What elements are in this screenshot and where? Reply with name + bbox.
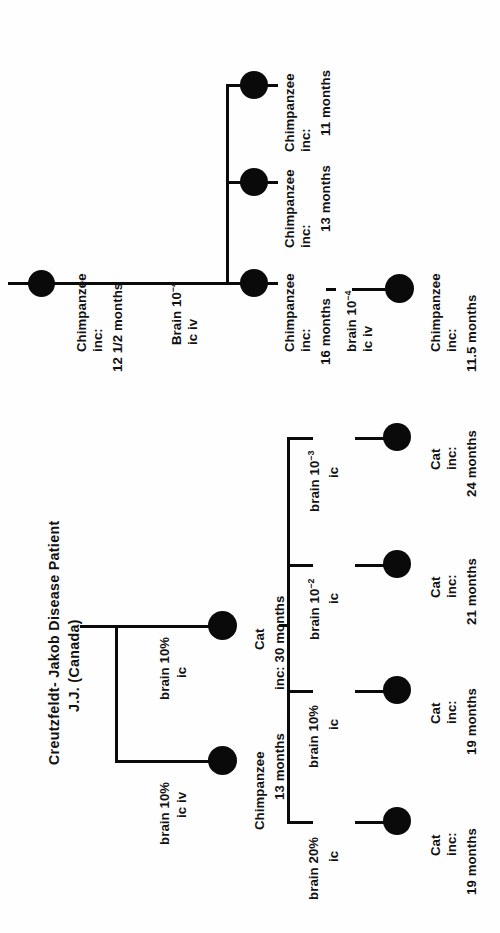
label-root-edge-inoculum: Brain 10−4: [168, 282, 185, 345]
edge-cat-to-trunk: [279, 624, 290, 627]
edge-upper-child-3-stub: [264, 84, 278, 87]
exponent: −3: [306, 450, 316, 460]
label-grandchild-edge-route: ic iv: [360, 326, 376, 352]
label-cat-2-incubation: 19 months: [464, 688, 480, 755]
label-upper-grandchild-species: Chimpanzee: [428, 273, 444, 352]
edge-patient-stem: [80, 625, 117, 628]
exponent: −4: [343, 290, 353, 300]
label-upper-child-3-species: Chimpanzee: [282, 73, 298, 152]
trunk-patient-split: [115, 625, 118, 763]
node-cat-child-3: [383, 550, 411, 578]
edge-upper-child-2-stub: [264, 181, 278, 184]
page-title-line2: J.J. (Canada): [66, 619, 83, 712]
label-upper-child-1-incubation: 16 months: [318, 298, 334, 365]
label-cat-edge-3-inoculum: brain 10−2: [306, 578, 323, 640]
label-cat-1-inc: inc:: [444, 832, 460, 856]
label-cat-3-species: Cat: [428, 576, 444, 598]
edge-cat-child-4: [287, 437, 313, 440]
label-cat-edge-2-route: ic: [326, 719, 342, 730]
label-patient-chimp-route: ic iv: [174, 792, 190, 818]
node-upper-grandchild-chimpanzee: [385, 274, 414, 303]
label-upper-child-1-species: Chimpanzee: [282, 273, 298, 352]
edge-cat-child-3: [287, 564, 313, 567]
label-cat-4-inc: inc:: [444, 446, 460, 470]
edge-cat-child-2: [287, 690, 313, 693]
figure-canvas: Chimpanzee inc: 12 1/2 months Brain 10−4…: [0, 0, 500, 933]
label-upper-root-inc: inc:: [90, 328, 106, 352]
label-upper-child-1-inc: inc:: [298, 328, 314, 352]
label-patient-chimp-inoculum: brain 10%: [157, 782, 173, 845]
label-cat-2-inc: inc:: [444, 700, 460, 724]
edge-upper-child-1-stub: [264, 282, 278, 285]
edge-root-stub: [8, 282, 34, 285]
label-upper-child-2-incubation: 13 months: [318, 165, 334, 232]
label-lower-cat-species: Cat: [252, 628, 268, 650]
node-cat-child-4: [383, 423, 411, 451]
label-upper-child-2-species: Chimpanzee: [282, 169, 298, 248]
node-lower-cat-30months: [208, 611, 237, 640]
node-cat-child-2: [383, 676, 411, 704]
label-cat-3-incubation: 21 months: [464, 558, 480, 625]
label-cat-4-incubation: 24 months: [464, 430, 480, 497]
label-cat-2-species: Cat: [428, 702, 444, 724]
edge-grandchild-tick: [326, 288, 336, 291]
label-cat-edge-3-route: ic: [326, 593, 342, 604]
label-cat-edge-4-inoculum: brain 10−3: [306, 450, 323, 512]
label-upper-child-3-inc: inc:: [298, 128, 314, 152]
label-upper-root-incubation: 12 1/2 months: [110, 283, 126, 372]
label-lower-chimp-incubation: 13 months: [272, 733, 288, 800]
label-upper-grandchild-incubation: 11.5 months: [464, 295, 480, 372]
label-upper-root-species: Chimpanzee: [74, 273, 90, 352]
node-lower-chimpanzee-13months: [208, 746, 237, 775]
label-patient-cat-route: ic: [174, 667, 190, 678]
label-root-edge-route: ic iv: [185, 319, 201, 345]
label-cat-1-incubation: 19 months: [464, 828, 480, 895]
exponent: −2: [306, 578, 316, 588]
label-upper-child-3-incubation: 11 months: [318, 70, 334, 136]
page-title-line1: Creutzfeldt- Jakob Disease Patient: [46, 521, 63, 765]
label-patient-cat-inoculum: brain 10%: [157, 637, 173, 700]
edge-cat-child-1: [287, 821, 313, 824]
label-lower-cat-incubation: inc: 30 months: [272, 596, 288, 690]
edge-patient-to-cat: [115, 625, 213, 628]
label-cat-edge-2-inoculum: brain 10%: [306, 705, 322, 768]
label-grandchild-edge-inoculum: brain 10−4: [343, 290, 360, 352]
edge-patient-to-chimp: [115, 760, 213, 763]
label-cat-4-species: Cat: [428, 448, 444, 470]
label-cat-edge-1-route: ic: [326, 851, 342, 862]
exponent: −4: [168, 282, 178, 292]
trunk-cat-children: [287, 437, 290, 824]
label-cat-edge-4-route: ic: [326, 467, 342, 478]
label-upper-child-2-inc: inc:: [298, 224, 314, 248]
trunk-upper-children: [226, 84, 229, 284]
label-cat-edge-1-inoculum: brain 20%: [306, 837, 322, 900]
label-cat-1-species: Cat: [428, 834, 444, 856]
label-lower-chimp-species: Chimpanzee: [252, 751, 268, 830]
label-upper-grandchild-inc: inc:: [444, 328, 460, 352]
label-cat-3-inc: inc:: [444, 574, 460, 598]
node-cat-child-1: [383, 807, 411, 835]
